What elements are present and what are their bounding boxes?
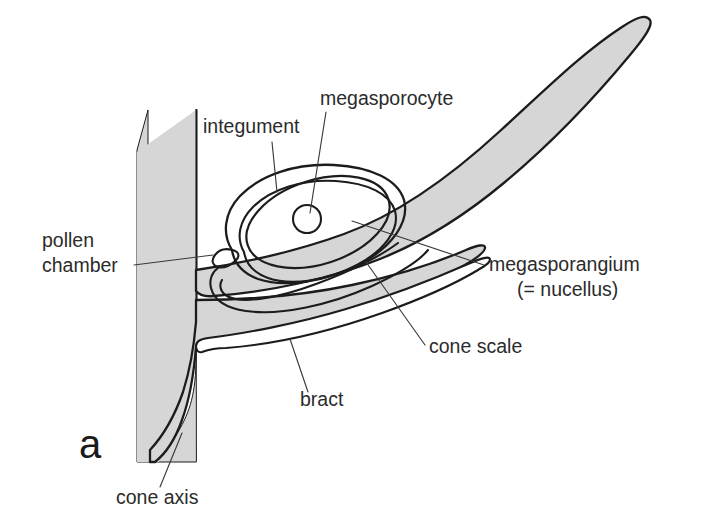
label-megasporangium-line1: megasporangium — [489, 253, 640, 275]
panel-letter: a — [79, 422, 102, 466]
figure-root: integument megasporocyte pollen chamber … — [0, 0, 702, 524]
label-pollen-chamber-line1: pollen — [42, 229, 94, 251]
label-pollen-chamber-line2: chamber — [42, 254, 118, 276]
label-cone-axis: cone axis — [116, 486, 199, 508]
label-cone-scale: cone scale — [429, 335, 522, 357]
label-megasporangium-line2: (= nucellus) — [517, 278, 618, 300]
label-bract: bract — [300, 388, 344, 410]
label-megasporocyte: megasporocyte — [320, 87, 453, 109]
label-integument: integument — [203, 115, 300, 137]
conifer-ovule-diagram: integument megasporocyte pollen chamber … — [0, 0, 702, 524]
